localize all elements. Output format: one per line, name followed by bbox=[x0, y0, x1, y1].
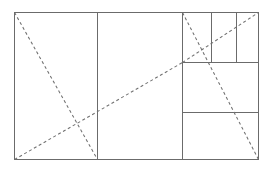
golden-ratio-diagram bbox=[0, 0, 274, 173]
figure-container bbox=[0, 0, 274, 173]
diagram-background bbox=[0, 0, 274, 173]
